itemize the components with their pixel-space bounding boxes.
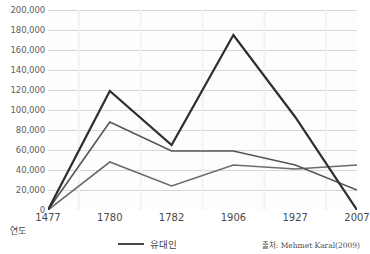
x-axis-tick-labels: 147717801782190619272007 bbox=[48, 212, 357, 228]
x-axis-tick-label: 1782 bbox=[159, 212, 184, 223]
y-axis-tick-label: 20,000 bbox=[16, 185, 45, 195]
x-axis-name: 연도 bbox=[10, 224, 26, 237]
x-axis-tick-label: 1927 bbox=[282, 212, 307, 223]
y-axis-tick-label: 80,000 bbox=[16, 125, 45, 135]
legend-label: 유대인 bbox=[150, 237, 177, 251]
x-axis-tick-label: 2007 bbox=[344, 212, 369, 223]
legend: 유대인 bbox=[118, 237, 177, 251]
plot-svg bbox=[48, 10, 357, 210]
source-note: 출처: Mehmet Karal(2009) bbox=[262, 239, 360, 250]
y-axis-tick-label: 60,000 bbox=[16, 145, 45, 155]
plot-area bbox=[48, 10, 357, 210]
x-axis-tick-label: 1906 bbox=[221, 212, 246, 223]
y-axis-tick-label: 160,000 bbox=[11, 45, 45, 55]
y-axis-tick-label: 140,000 bbox=[11, 65, 45, 75]
gridlines bbox=[48, 10, 357, 210]
x-axis-tick-label: 1780 bbox=[97, 212, 122, 223]
chart-title-cropped bbox=[0, 0, 364, 7]
y-axis-tick-label: 200,000 bbox=[11, 5, 45, 15]
legend-line-swatch bbox=[118, 243, 144, 246]
y-axis-tick-label: 40,000 bbox=[16, 165, 45, 175]
y-axis-tick-label: 100,000 bbox=[11, 105, 45, 115]
y-axis-tick-label: 180,000 bbox=[11, 25, 45, 35]
x-axis-tick-label: 1477 bbox=[35, 212, 60, 223]
y-axis-tick-label: 120,000 bbox=[11, 85, 45, 95]
